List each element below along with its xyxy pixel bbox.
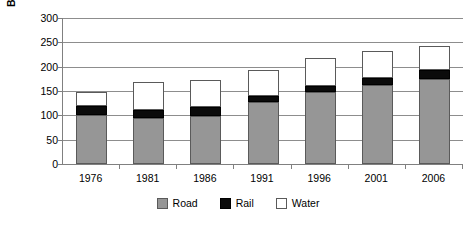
x-axis-ticks: [62, 164, 462, 169]
y-axis-tick-label: 200: [24, 62, 58, 72]
y-axis-tick-label: 50: [24, 135, 58, 145]
bar-segment-road-1986: [190, 116, 221, 164]
bar-segment-road-1991: [248, 102, 279, 164]
y-axis-tick-label: 0: [24, 159, 58, 169]
x-axis-tick-mark: [176, 164, 177, 169]
bar-2006: [419, 18, 450, 164]
legend-label: Road: [173, 198, 198, 209]
legend-item-rail[interactable]: Rail: [220, 198, 254, 209]
bar-segment-rail-1986: [190, 107, 221, 116]
legend-swatch-road-icon: [157, 198, 168, 209]
bar-segment-water-2006: [419, 46, 450, 70]
bar-segment-rail-1981: [133, 110, 164, 118]
bar-1986: [190, 18, 221, 164]
bar-1976: [76, 18, 107, 164]
bar-segment-road-2006: [419, 79, 450, 164]
x-axis-tick-mark: [119, 164, 120, 169]
x-axis-tick-label-1991: 1991: [236, 172, 288, 185]
legend-label: Rail: [236, 198, 254, 209]
x-axis-tick-label-1986: 1986: [179, 172, 231, 185]
y-axis-tick-label: 250: [24, 37, 58, 47]
bar-segment-water-1996: [305, 58, 336, 86]
x-axis-tick-mark: [462, 164, 463, 169]
x-axis-tick-mark: [348, 164, 349, 169]
x-axis-tick-mark: [405, 164, 406, 169]
x-axis-tick-label-2001: 2001: [350, 172, 402, 185]
x-axis-tick-label-1981: 1981: [122, 172, 174, 185]
bar-1981: [133, 18, 164, 164]
x-axis-tick-label-1996: 1996: [293, 172, 345, 185]
x-axis-tick-label-2006: 2006: [407, 172, 459, 185]
y-axis-tick-labels: 050100150200250300: [20, 18, 58, 164]
bar-segment-road-2001: [362, 85, 393, 164]
legend: RoadRailWater: [0, 198, 476, 209]
bar-segment-road-1996: [305, 92, 336, 164]
bar-segment-road-1976: [76, 115, 107, 164]
stacked-bar-chart: Billion tonne-kms 050100150200250300 197…: [0, 0, 476, 227]
x-axis-tick-labels: 1976198119861991199620012006: [62, 172, 462, 186]
bar-segment-rail-1996: [305, 86, 336, 92]
y-axis-tick-label: 100: [24, 110, 58, 120]
bar-2001: [362, 18, 393, 164]
legend-swatch-rail-icon: [220, 198, 231, 209]
y-axis-title: Billion tonne-kms: [2, 0, 20, 36]
bar-segment-water-1991: [248, 70, 279, 96]
bar-1996: [305, 18, 336, 164]
legend-label: Water: [292, 198, 320, 209]
bar-segment-water-1981: [133, 82, 164, 110]
bar-segment-road-1981: [133, 118, 164, 164]
x-axis-tick-mark: [291, 164, 292, 169]
bar-segment-rail-2001: [362, 78, 393, 85]
bar-segment-water-2001: [362, 51, 393, 78]
y-axis-tick-label: 300: [24, 13, 58, 23]
legend-swatch-water-icon: [276, 198, 287, 209]
legend-item-road[interactable]: Road: [157, 198, 198, 209]
y-axis-tick-label: 150: [24, 86, 58, 96]
x-axis-tick-label-1976: 1976: [65, 172, 117, 185]
bar-segment-water-1986: [190, 80, 221, 107]
bar-segment-rail-1991: [248, 96, 279, 102]
bar-1991: [248, 18, 279, 164]
bar-segment-water-1976: [76, 92, 107, 107]
legend-item-water[interactable]: Water: [276, 198, 320, 209]
x-axis-tick-mark: [233, 164, 234, 169]
bar-segment-rail-2006: [419, 70, 450, 79]
bar-segment-rail-1976: [76, 106, 107, 115]
plot-area: [62, 18, 463, 165]
